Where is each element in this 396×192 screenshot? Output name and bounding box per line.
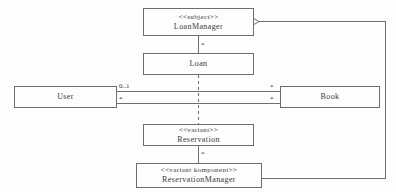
multiplicity-user-book-bottom-left: * xyxy=(119,96,123,103)
class-box-reservationmanager[interactable]: <<variant komponent>> ReservationManager xyxy=(136,163,262,188)
class-name-reservationmanager: ReservationManager xyxy=(162,175,236,185)
class-box-loanmanager[interactable]: <<subject>> LoanManager xyxy=(143,8,254,36)
class-name-loan: Loan xyxy=(189,59,207,69)
uml-diagram-canvas: <<subject>> LoanManager Loan User Book <… xyxy=(0,0,396,192)
class-box-book[interactable]: Book xyxy=(280,86,380,108)
class-box-user[interactable]: User xyxy=(14,86,117,108)
multiplicity-user-book-top-right: * xyxy=(270,84,274,91)
multiplicity-user-book-top-left: 0..1 xyxy=(119,83,130,90)
class-name-user: User xyxy=(57,92,74,102)
class-name-reservation: Reservation xyxy=(177,135,220,145)
class-box-reservation[interactable]: <<variant>> Reservation xyxy=(143,124,254,146)
multiplicity-loanmanager-loan: * xyxy=(201,42,205,49)
multiplicity-user-book-bottom-right: * xyxy=(270,96,274,103)
class-stereotype-reservationmanager: <<variant komponent>> xyxy=(161,166,238,175)
multiplicity-reservation-reservationmanager: * xyxy=(201,151,205,158)
class-stereotype-reservation: <<variant>> xyxy=(179,126,219,135)
class-name-loanmanager: LoanManager xyxy=(174,22,223,32)
class-name-book: Book xyxy=(321,92,340,102)
class-box-loan[interactable]: Loan xyxy=(143,53,254,75)
class-stereotype-loanmanager: <<subject>> xyxy=(178,13,218,22)
